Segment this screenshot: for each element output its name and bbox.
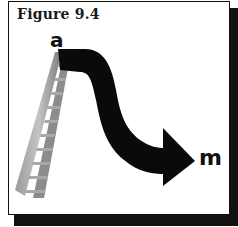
start-label: a: [50, 28, 64, 52]
ladder-icon: [15, 52, 71, 198]
curved-arrow: [58, 49, 195, 186]
figure-illustration: [0, 0, 238, 227]
end-label: m: [199, 145, 222, 170]
